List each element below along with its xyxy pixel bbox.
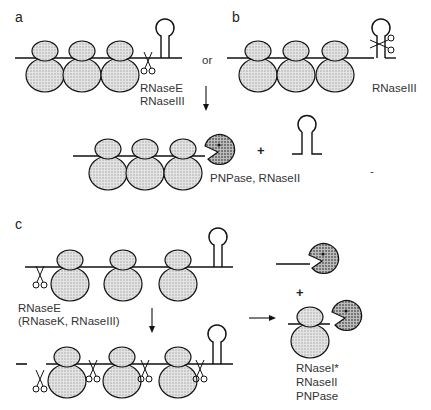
ribosome	[48, 347, 86, 398]
enzyme-label: PNPase	[296, 390, 338, 402]
ribosome	[101, 41, 139, 92]
scissors-icon	[33, 266, 47, 288]
panel-b: b RNaseIII	[227, 9, 417, 94]
or-connector: or	[202, 54, 212, 66]
scissors-icon	[33, 370, 47, 392]
enzyme-label: RNaseII	[296, 376, 338, 388]
ribosome	[126, 139, 164, 190]
panel-a-label: a	[15, 9, 23, 25]
enzyme-label: RNaseIII	[140, 95, 185, 107]
arrowhead-icon	[203, 104, 209, 111]
ribosome	[51, 250, 89, 301]
stem-loop	[156, 19, 174, 58]
plus-sign: +	[296, 285, 304, 300]
ribosome	[239, 41, 277, 92]
ribosome	[26, 41, 64, 92]
panel-c: c RNaseE (RNaseK, RNaseIII) +	[15, 216, 362, 402]
exonuclease-icon	[332, 300, 362, 330]
stem-loop	[292, 132, 322, 154]
panel-a: a RNaseE RNaseIII or	[15, 9, 212, 111]
ribosome	[159, 250, 197, 301]
panel-b-label: b	[232, 9, 240, 25]
enzyme-label: RNaseE	[18, 302, 61, 314]
ribosome	[104, 250, 142, 301]
stem-loop	[209, 228, 227, 267]
scissors-icon	[141, 52, 155, 74]
stem-loop	[208, 325, 226, 364]
plus-sign: +	[257, 143, 265, 158]
enzyme-label: PNPase, RNaseII	[210, 172, 300, 184]
panel-c-label: c	[15, 216, 22, 232]
ribosome	[277, 41, 315, 92]
exonuclease-icon	[205, 134, 235, 164]
mrna-decay-diagram: a RNaseE RNaseIII or b RNaseIII	[0, 0, 431, 410]
ribosome	[103, 347, 141, 398]
arrowhead-icon	[269, 315, 276, 321]
ribosome	[316, 41, 354, 92]
ribosome	[63, 41, 101, 92]
enzyme-label: RNaseIII	[372, 82, 417, 94]
stem-loop	[372, 19, 390, 58]
enzyme-label: RNaseE	[140, 82, 183, 94]
ribosome	[159, 347, 197, 398]
ribosome	[291, 307, 329, 358]
arrowhead-icon	[149, 326, 155, 333]
enzyme-label: RNaseI*	[296, 362, 339, 374]
ribosome	[164, 139, 202, 190]
panel-ab-products: PNPase, RNaseII + -	[73, 116, 374, 190]
mark: -	[370, 165, 374, 177]
enzyme-label: (RNaseK, RNaseIII)	[18, 315, 120, 327]
ribosome	[89, 139, 127, 190]
exonuclease-icon	[309, 243, 339, 273]
scissors-icon	[370, 35, 394, 53]
